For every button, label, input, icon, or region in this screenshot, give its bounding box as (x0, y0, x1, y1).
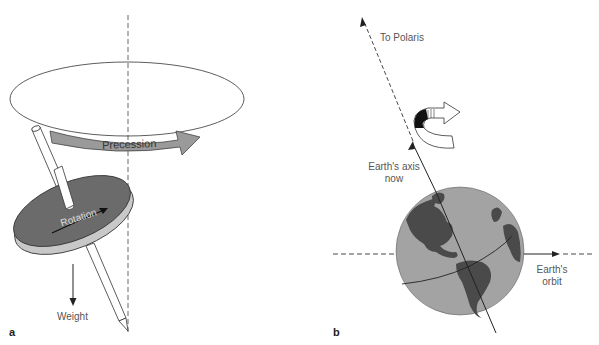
weight-label: Weight (57, 311, 88, 323)
polaris-arrow-icon (360, 17, 366, 27)
panel-label-b: b (333, 326, 340, 338)
earth-globe (396, 187, 524, 318)
precession-rotation-arrow-icon (414, 102, 460, 148)
precession-label: Precession (102, 137, 157, 151)
panel-a-spinning-top (4, 15, 244, 332)
to-polaris-label: To Polaris (380, 32, 424, 44)
earths-orbit-label: Earth's orbit (530, 264, 574, 288)
top-lower-stem (86, 243, 128, 331)
precession-diagram (0, 0, 599, 345)
earth-axis-now-label: Earth's axis now (364, 161, 424, 185)
panel-label-a: a (9, 326, 15, 338)
precession-path-ellipse (10, 62, 244, 136)
